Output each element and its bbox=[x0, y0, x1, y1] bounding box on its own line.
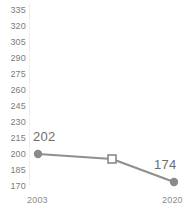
data-point-marker-middle bbox=[108, 155, 116, 163]
line-chart: 335 320 305 290 275 260 245 230 215 200 … bbox=[0, 0, 192, 213]
x-tick-label-2020: 2020 bbox=[162, 196, 183, 205]
data-label-last: 174 bbox=[154, 158, 177, 171]
series-line-svg bbox=[0, 0, 192, 213]
x-tick-label-2003: 2003 bbox=[27, 196, 48, 205]
data-point-marker-first bbox=[34, 150, 42, 158]
data-point-marker-last bbox=[170, 178, 178, 186]
data-label-first: 202 bbox=[33, 130, 56, 143]
plot-area: 202 174 bbox=[0, 0, 192, 213]
